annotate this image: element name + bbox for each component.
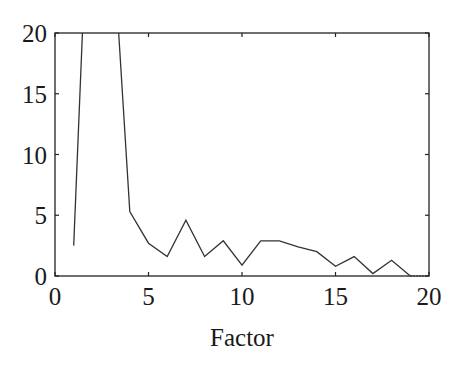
y-tick-label: 10: [22, 142, 47, 169]
line-chart: 05101520 05101520 Factor: [0, 0, 459, 365]
y-tick-label: 0: [35, 263, 48, 290]
axis-ticks: [55, 33, 429, 276]
x-tick-label: 20: [417, 283, 442, 310]
data-line: [74, 0, 411, 276]
y-tick-label: 15: [22, 81, 47, 108]
plot-area: [74, 0, 429, 276]
y-tick-labels: 05101520: [22, 20, 47, 290]
x-axis-title: Factor: [210, 324, 275, 351]
plot-frame: [55, 33, 429, 276]
y-tick-label: 20: [22, 20, 47, 47]
x-tick-label: 15: [323, 283, 348, 310]
x-tick-label: 10: [230, 283, 255, 310]
x-tick-label: 0: [49, 283, 62, 310]
y-tick-label: 5: [35, 202, 48, 229]
x-tick-labels: 05101520: [49, 283, 442, 310]
axes-box: [55, 33, 429, 276]
x-tick-label: 5: [142, 283, 155, 310]
